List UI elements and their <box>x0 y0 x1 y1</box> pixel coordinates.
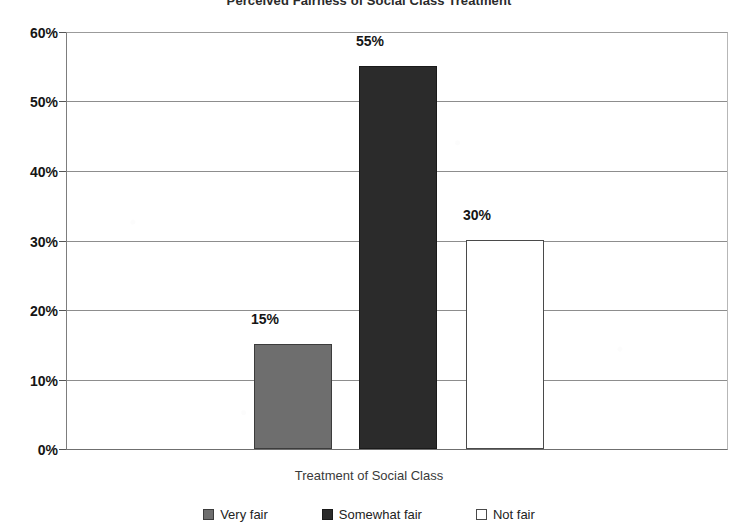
y-tick-label-30: 30% <box>0 235 58 249</box>
legend-label-somewhat-fair: Somewhat fair <box>339 507 422 522</box>
y-tick-mark-0 <box>59 449 66 450</box>
bar-somewhat-fair[interactable] <box>359 66 437 449</box>
y-tick-label-40: 40% <box>0 165 58 179</box>
chart-title: Perceived Fairness of Social Class Treat… <box>0 0 738 8</box>
y-tick-label-0: 0% <box>0 443 58 457</box>
y-tick-mark-10 <box>59 380 66 381</box>
y-tick-label-10: 10% <box>0 374 58 388</box>
bar-label-very-fair: 15% <box>226 312 304 326</box>
y-tick-mark-40 <box>59 171 66 172</box>
y-tick-label-20: 20% <box>0 304 58 318</box>
y-tick-mark-20 <box>59 310 66 311</box>
y-tick-mark-30 <box>59 241 66 242</box>
chart-legend: Very fair Somewhat fair Not fair <box>0 507 738 522</box>
bar-label-not-fair: 30% <box>438 208 516 222</box>
x-axis-title: Treatment of Social Class <box>0 468 738 483</box>
bar-chart: Perceived Fairness of Social Class Treat… <box>0 0 738 529</box>
legend-swatch-icon <box>322 509 333 520</box>
y-tick-label-50: 50% <box>0 95 58 109</box>
y-tick-mark-60 <box>59 32 66 33</box>
legend-swatch-icon <box>476 509 487 520</box>
y-tick-mark-50 <box>59 101 66 102</box>
legend-swatch-icon <box>203 509 214 520</box>
legend-item-very-fair[interactable]: Very fair <box>203 507 268 522</box>
legend-item-somewhat-fair[interactable]: Somewhat fair <box>322 507 422 522</box>
bar-label-somewhat-fair: 55% <box>331 34 409 48</box>
plot-area <box>66 32 728 450</box>
legend-label-not-fair: Not fair <box>493 507 535 522</box>
bar-very-fair[interactable] <box>254 344 332 449</box>
legend-label-very-fair: Very fair <box>220 507 268 522</box>
bar-not-fair[interactable] <box>466 240 544 449</box>
legend-item-not-fair[interactable]: Not fair <box>476 507 535 522</box>
y-tick-label-60: 60% <box>0 26 58 40</box>
